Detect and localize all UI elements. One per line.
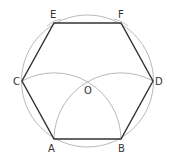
vertex-label-e: E (50, 9, 56, 20)
vertex-label-f: F (118, 9, 124, 20)
construction-arc-from-b (54, 73, 153, 139)
vertex-label-a: A (48, 143, 55, 154)
vertex-label-b: B (118, 143, 125, 154)
vertex-label-c: C (13, 76, 20, 87)
center-label-o: O (84, 85, 92, 96)
diagram-svg: A B D F E C O (0, 0, 171, 158)
circumscribed-circle (22, 15, 154, 147)
hexagon (22, 23, 153, 139)
vertex-label-d: D (155, 76, 163, 87)
construction-arc-from-a (22, 73, 121, 139)
hexagon-construction-diagram: A B D F E C O (0, 0, 171, 158)
